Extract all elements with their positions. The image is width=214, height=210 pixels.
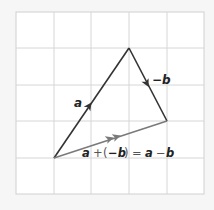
- svg-text:(: (: [103, 146, 108, 160]
- svg-text:): ): [124, 146, 129, 160]
- svg-text:−: −: [156, 146, 166, 160]
- svg-text:=: =: [132, 146, 142, 160]
- svg-text:a: a: [145, 146, 153, 160]
- svg-text:b: b: [166, 146, 174, 160]
- label-a: a: [74, 96, 82, 110]
- label-neg-b: −b: [152, 73, 171, 87]
- label-result: a + ( −b ) = a − b: [82, 146, 174, 160]
- grid-background: [16, 12, 204, 194]
- svg-text:a: a: [82, 146, 90, 160]
- vector-diagram: a −b a + ( −b ) = a − b: [0, 0, 214, 210]
- svg-text:+: +: [93, 146, 103, 160]
